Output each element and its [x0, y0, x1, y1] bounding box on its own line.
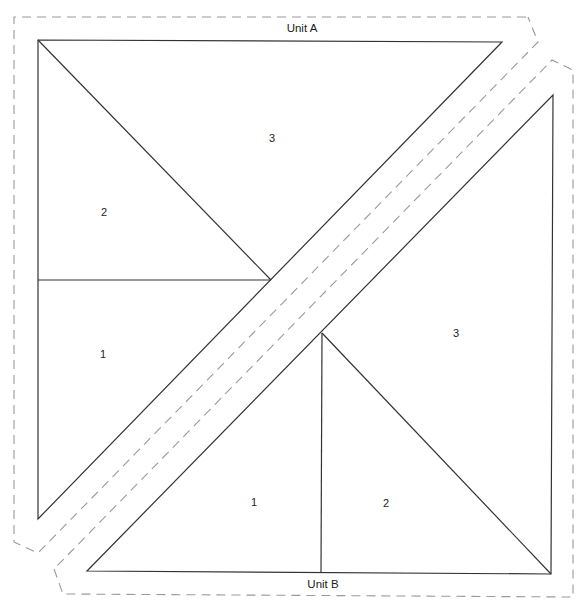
unit-a-piece-2-label: 2	[101, 206, 107, 218]
unit-a-seam-2-3	[38, 40, 271, 280]
unit-b-seam-allowance	[54, 60, 573, 597]
unit-a-title: Unit A	[287, 22, 318, 34]
unit-b-piece-2-label: 2	[383, 497, 389, 509]
unit-b-seam-2-3	[322, 333, 551, 574]
unit-b-title: Unit B	[307, 578, 338, 590]
unit-b-seam-1-2	[321, 333, 322, 572]
unit-a-seam-allowance	[14, 17, 538, 553]
unit-a-piece-3-label: 3	[269, 132, 275, 144]
paper-piecing-pattern: Unit A 3 2 1 3 1 2 Unit B	[0, 0, 587, 610]
unit-b-piece-3-label: 3	[453, 327, 459, 339]
unit-a-piece-1-label: 1	[100, 348, 106, 360]
pattern-drawing	[0, 0, 587, 610]
unit-b-piece-1-label: 1	[251, 496, 257, 508]
